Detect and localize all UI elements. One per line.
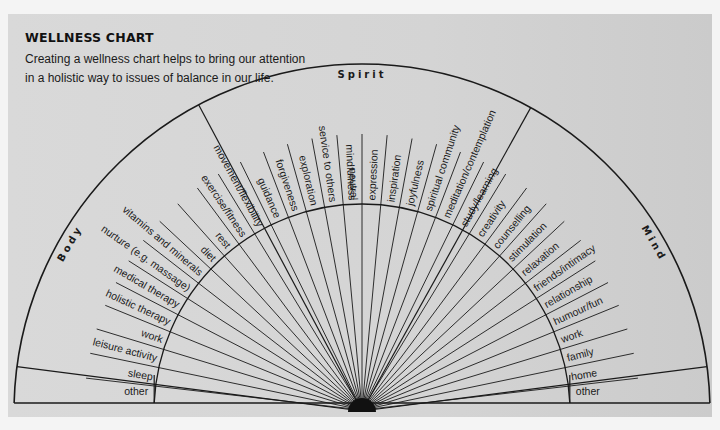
spoke-line [178, 204, 362, 410]
wellness-chart: sleepleisure activityworkholistic therap… [0, 0, 720, 430]
spoke-label: family [565, 345, 595, 364]
spoke-labels: sleepleisure activityworkholistic therap… [86, 108, 638, 410]
spoke-line [362, 162, 484, 410]
spoke-line [362, 221, 564, 410]
spoke-label: work [558, 326, 585, 345]
section-label-mind: Mind [640, 223, 669, 263]
spoke-label: neutral [347, 168, 360, 201]
spoke-label: work [139, 326, 166, 345]
center-hub [348, 398, 376, 412]
spoke-line [362, 204, 546, 410]
section-label-spirit: Spirit [338, 69, 387, 80]
spoke-label: service to others [317, 125, 340, 203]
spoke-label: inspiration [385, 154, 404, 203]
spoke-label: sleep [127, 366, 154, 382]
spoke-label: expression [365, 149, 380, 200]
spoke-label: home [570, 366, 598, 382]
spoke-label: exploration [297, 154, 320, 207]
spoke-line [240, 162, 362, 410]
spoke-line [160, 221, 362, 410]
left-other-label: other [124, 385, 148, 397]
section-label-body: Body [55, 223, 85, 263]
right-other-label: other [576, 385, 600, 397]
